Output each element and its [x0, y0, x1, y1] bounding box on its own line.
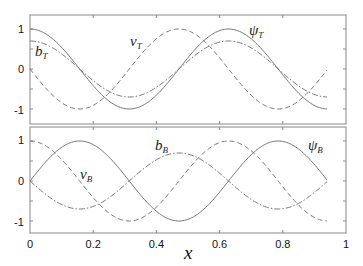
- two-panel-line-chart: 1 0 -1 bT vT ψT 1 0 -1 00.20.40.60.81 x …: [0, 0, 363, 266]
- top-ytick-1: 1: [18, 23, 24, 35]
- label-b-T: bT: [35, 43, 49, 61]
- bottom-panel-frame: [30, 127, 346, 233]
- top-panel-curves: [30, 29, 327, 109]
- top-ytick-neg1: -1: [14, 104, 24, 116]
- top-panel-ticks: [30, 15, 346, 124]
- x-tick-label: 0.4: [149, 238, 164, 250]
- label-v-T: vT: [130, 33, 143, 51]
- label-psi-T: ψT: [249, 22, 264, 40]
- bottom-panel-curves: [30, 141, 327, 221]
- bottom-ytick-0: 0: [18, 175, 24, 187]
- curve-b-T: [30, 41, 327, 97]
- curve-b-B: [30, 153, 327, 209]
- bottom-ytick-1: 1: [18, 134, 24, 146]
- top-ytick-0: 0: [18, 63, 24, 75]
- x-tick-label: 0.6: [212, 238, 227, 250]
- label-v-B: vB: [80, 166, 93, 184]
- top-panel: 1 0 -1 bT vT ψT: [14, 15, 346, 124]
- label-psi-B: ψB: [308, 137, 323, 155]
- bottom-panel-ticks: [30, 127, 346, 233]
- top-panel-frame: [30, 15, 346, 124]
- x-tick-label: 0: [27, 238, 33, 250]
- x-tick-label: 0.8: [275, 238, 290, 250]
- x-tick-label: 1: [343, 238, 349, 250]
- x-tick-label: 0.2: [86, 238, 101, 250]
- x-axis-label: x: [183, 242, 193, 263]
- bottom-ytick-neg1: -1: [14, 216, 24, 228]
- label-b-B: bB: [155, 137, 169, 155]
- bottom-panel: 1 0 -1 00.20.40.60.81 x vB bB ψB: [14, 127, 349, 263]
